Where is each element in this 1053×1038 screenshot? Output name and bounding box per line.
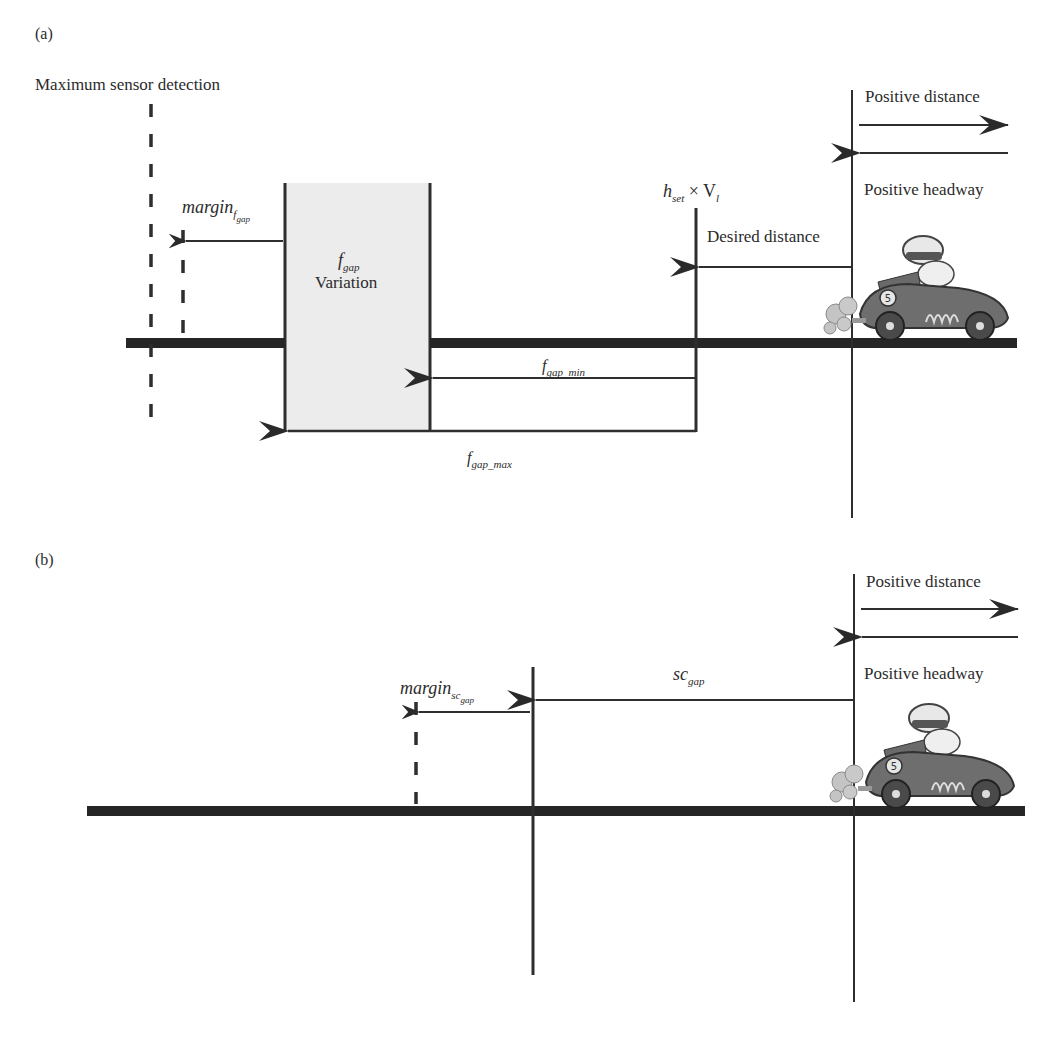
hset-h: h (663, 181, 672, 201)
svg-text:5: 5 (885, 293, 891, 304)
scgap-label: scgap (673, 665, 705, 687)
race-car-icon-b: 5 (814, 700, 1029, 808)
fgap-variation-box (285, 183, 430, 431)
positive-headway-label-a: Positive headway (864, 181, 983, 198)
positive-distance-label-a: Positive distance (865, 88, 980, 105)
variation-label: Variation (315, 274, 377, 291)
fgap-sub: gap (343, 261, 360, 273)
margin-scgap-label: marginscgap (400, 679, 474, 705)
times-vl: × V (684, 181, 716, 201)
max-sensor-detection-label: Maximum sensor detection (35, 76, 220, 93)
panel-a-label: (a) (35, 26, 53, 42)
fgap-max-sub: gap_max (471, 458, 511, 470)
fgap-min-sub: gap_min (546, 366, 585, 378)
fgap-min-label: fgap_min (542, 358, 585, 378)
margin-text: margin (182, 197, 233, 217)
vl-sub: l (716, 192, 719, 204)
margin-b-sub-sc: sc (451, 689, 460, 701)
svg-text:5: 5 (891, 761, 897, 772)
diagram-canvas (0, 0, 1053, 1038)
positive-headway-label-b: Positive headway (864, 665, 983, 682)
fgap-max-label: fgap_max (467, 450, 512, 470)
fgap-label: fgap (338, 251, 360, 273)
hset-sub: set (672, 192, 684, 204)
margin-b-subsub-gap: gap (461, 695, 475, 705)
margin-b-text: margin (400, 678, 451, 698)
hset-times-vl-label: hset × Vl (663, 182, 719, 204)
margin-fgap-label: marginfgap (182, 198, 250, 224)
scgap-sub: gap (688, 675, 705, 687)
margin-subsub-gap: gap (236, 214, 250, 224)
scgap-sc: sc (673, 664, 688, 684)
desired-distance-label: Desired distance (707, 228, 820, 245)
positive-distance-label-b: Positive distance (866, 573, 981, 590)
panel-b-label: (b) (35, 552, 54, 568)
race-car-icon-a: 5 (808, 232, 1023, 340)
